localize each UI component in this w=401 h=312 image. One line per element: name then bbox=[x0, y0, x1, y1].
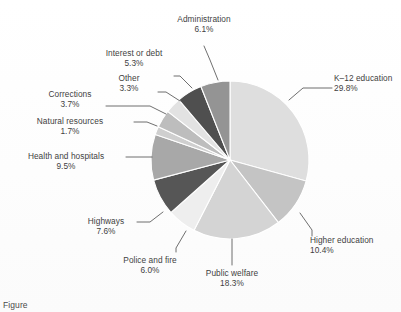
leader-line-k12 bbox=[289, 88, 332, 100]
slice-name-natural-resources: Natural resources bbox=[37, 116, 103, 126]
slice-name-interest-or-debt: Interest or debt bbox=[106, 48, 163, 58]
slice-label-higher-education: Higher education 10.4% bbox=[310, 235, 374, 255]
slice-value-corrections: 3.7% bbox=[49, 99, 92, 109]
leader-line-corrections bbox=[106, 106, 166, 114]
slice-name-other: Other bbox=[118, 73, 139, 83]
leader-line-natural-resources bbox=[134, 122, 157, 126]
slice-label-natural-resources: Natural resources 1.7% bbox=[37, 116, 103, 136]
slice-value-interest-or-debt: 5.3% bbox=[106, 58, 163, 68]
slice-value-police-and-fire: 6.0% bbox=[123, 265, 176, 275]
leader-line-administration bbox=[204, 46, 218, 80]
slice-name-higher-education: Higher education bbox=[310, 235, 374, 245]
slice-label-corrections: Corrections 3.7% bbox=[49, 89, 92, 109]
slice-label-health-and-hospitals: Health and hospitals 9.5% bbox=[28, 151, 104, 171]
pie-slices bbox=[151, 81, 309, 239]
slice-value-health-and-hospitals: 9.5% bbox=[28, 161, 104, 171]
slice-name-highways: Highways bbox=[88, 216, 124, 226]
figure-caption: Figure bbox=[3, 300, 28, 311]
slice-label-police-and-fire: Police and fire 6.0% bbox=[123, 255, 176, 275]
pie-chart-figure: K–12 education 29.8% Higher education 10… bbox=[0, 0, 401, 312]
slice-label-administration: Administration 6.1% bbox=[177, 14, 230, 34]
slice-label-other: Other 3.3% bbox=[118, 73, 139, 93]
leader-line-highways bbox=[137, 212, 163, 222]
slice-label-k12-education: K–12 education 29.8% bbox=[334, 73, 392, 93]
leader-line-other bbox=[158, 92, 180, 101]
slice-name-administration: Administration bbox=[177, 14, 230, 24]
leader-line-interest-or-debt bbox=[174, 76, 192, 88]
leader-line-higher-education bbox=[300, 213, 312, 236]
slice-name-public-welfare: Public welfare bbox=[206, 268, 258, 278]
slice-name-corrections: Corrections bbox=[49, 89, 92, 99]
slice-value-natural-resources: 1.7% bbox=[37, 126, 103, 136]
slice-value-k12-education: 29.8% bbox=[334, 83, 392, 93]
slice-label-highways: Highways 7.6% bbox=[88, 216, 124, 236]
slice-value-other: 3.3% bbox=[118, 83, 139, 93]
slice-value-administration: 6.1% bbox=[177, 24, 230, 34]
slice-value-public-welfare: 18.3% bbox=[206, 278, 258, 288]
slice-value-higher-education: 10.4% bbox=[310, 245, 374, 255]
slice-label-public-welfare: Public welfare 18.3% bbox=[206, 268, 258, 288]
slice-label-interest-or-debt: Interest or debt 5.3% bbox=[106, 48, 163, 68]
slice-name-health-and-hospitals: Health and hospitals bbox=[28, 151, 104, 161]
slice-name-police-and-fire: Police and fire bbox=[123, 255, 176, 265]
slice-value-highways: 7.6% bbox=[88, 226, 124, 236]
slice-name-k12-education: K–12 education bbox=[334, 73, 392, 83]
leader-line-police-and-fire bbox=[176, 231, 186, 252]
